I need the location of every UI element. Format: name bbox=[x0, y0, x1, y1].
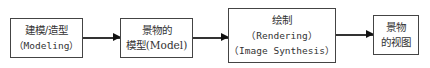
node-model: 景物的 模型(Model) bbox=[120, 18, 193, 58]
node-view: 景物 的视图 bbox=[373, 15, 419, 55]
node-modeling-title: 建模/造型 bbox=[25, 23, 69, 38]
node-rendering-title: 绘制 bbox=[272, 13, 292, 28]
arrow-model-to-rendering bbox=[193, 37, 228, 39]
arrow-modeling-to-model bbox=[83, 37, 120, 39]
node-rendering-subtitle: （Rendering） bbox=[246, 28, 317, 43]
node-modeling: 建模/造型 （Modeling） bbox=[10, 18, 83, 58]
node-model-title: 景物的 bbox=[142, 23, 172, 38]
arrow-rendering-to-view bbox=[336, 34, 373, 36]
node-modeling-subtitle: （Modeling） bbox=[14, 38, 80, 53]
node-model-subtitle: 模型(Model) bbox=[126, 38, 188, 53]
node-rendering: 绘制 （Rendering） （Image Synthesis） bbox=[228, 8, 336, 63]
node-rendering-subtitle-2: （Image Synthesis） bbox=[229, 43, 335, 58]
node-view-title: 景物 bbox=[386, 20, 406, 35]
node-view-subtitle: 的视图 bbox=[381, 35, 411, 50]
